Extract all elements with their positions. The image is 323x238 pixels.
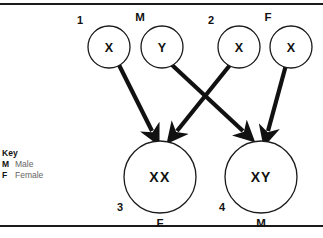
parent-node-4: X F	[264, 11, 312, 68]
parent-allele-3: X	[235, 41, 244, 55]
key-title: Key	[2, 148, 74, 159]
key-entry-male: M Male	[2, 159, 74, 170]
key-legend: Key M Male F Female	[2, 148, 74, 181]
diagram-page: X 1 Y M X 2 X F XX 3 F XY 4	[0, 0, 323, 238]
offspring-number-3: 3	[117, 201, 123, 213]
parent-node-3: X 2	[208, 14, 260, 68]
arrow-group	[119, 65, 286, 131]
offspring-genotype-xx: XX	[149, 169, 171, 185]
parent-sex-label-male: M	[135, 11, 145, 23]
arrow-parent1-to-xx	[119, 65, 152, 131]
parent-allele-2: Y	[158, 41, 167, 55]
offspring-sex-label-male: M	[256, 217, 266, 229]
offspring-node-xx: XX 3 F	[117, 141, 196, 229]
key-entry-female: F Female	[2, 170, 74, 181]
key-meaning-male: Male	[15, 159, 33, 170]
key-symbol-male: M	[2, 159, 15, 170]
key-meaning-female: Female	[15, 170, 43, 181]
parent-allele-1: X	[105, 41, 114, 55]
parent-number-2: 2	[208, 14, 214, 26]
arrow-parent-f-to-xy	[268, 65, 286, 131]
inheritance-diagram: X 1 Y M X 2 X F XX 3 F XY 4	[0, 0, 323, 238]
offspring-sex-label-female: F	[156, 217, 163, 229]
offspring-genotype-xy: XY	[251, 169, 272, 185]
offspring-number-4: 4	[219, 201, 226, 213]
parent-node-2: Y M	[135, 11, 183, 68]
offspring-node-xy: XY 4 M	[219, 141, 297, 229]
parent-allele-4: X	[287, 41, 296, 55]
parent-node-1: X 1	[77, 14, 130, 68]
parent-number-1: 1	[77, 14, 83, 26]
parent-sex-label-female: F	[264, 11, 271, 23]
key-symbol-female: F	[2, 170, 15, 181]
